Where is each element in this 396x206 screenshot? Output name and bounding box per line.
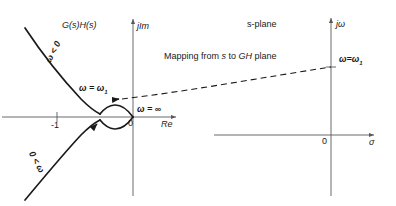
gh-origin-label: 0 — [128, 119, 133, 128]
mapping-annotation-gh-symbol: GH — [239, 51, 253, 61]
s-origin-label: 0 — [322, 137, 327, 146]
mapping-annotation-prefix: Mapping from — [164, 51, 222, 61]
gh-branch-omega-negative — [25, 28, 100, 114]
gh-real-axis-label: Re — [161, 120, 173, 129]
figure-canvas — [0, 0, 396, 206]
gh-omega-infinity-label: ω = ∞ — [137, 105, 161, 114]
figure-mapping-s-to-gh-plane: G(s)H(s) jIm Re 0 -1 ω = ω1 ω = ∞ ω < 0 … — [0, 0, 396, 206]
mapping-dashed-connector — [122, 67, 331, 99]
s-plane-axes — [214, 18, 374, 196]
gh-loop-upper — [100, 105, 133, 117]
s-jomega-axis-label: jω — [336, 20, 345, 29]
s-omega-one-text: ω=ω — [339, 54, 359, 64]
s-omega-one-subscript: 1 — [359, 60, 362, 66]
gh-loop-direction-arrow — [112, 99, 119, 100]
s-omega-one-label: ω=ω1 — [339, 55, 363, 66]
gh-omega-one-label: ω = ω1 — [79, 84, 108, 95]
gh-minus-one-label: -1 — [51, 121, 59, 130]
gh-plane-title: G(s)H(s) — [62, 21, 97, 30]
s-plane-title: s-plane — [247, 20, 277, 29]
gh-omega-infinity-text: ω = ∞ — [137, 104, 161, 114]
s-sigma-axis-label: σ — [369, 138, 374, 147]
gh-omega-one-text: ω = ω — [79, 83, 104, 93]
gh-imaginary-axis-label: jIm — [137, 22, 149, 31]
gh-omega-one-subscript: 1 — [104, 89, 107, 95]
mapping-annotation-suffix: plane — [252, 51, 277, 61]
gh-plane-locus — [25, 28, 133, 200]
mapping-annotation: Mapping from s to GH plane — [164, 52, 277, 61]
mapping-annotation-middle: to — [226, 51, 239, 61]
